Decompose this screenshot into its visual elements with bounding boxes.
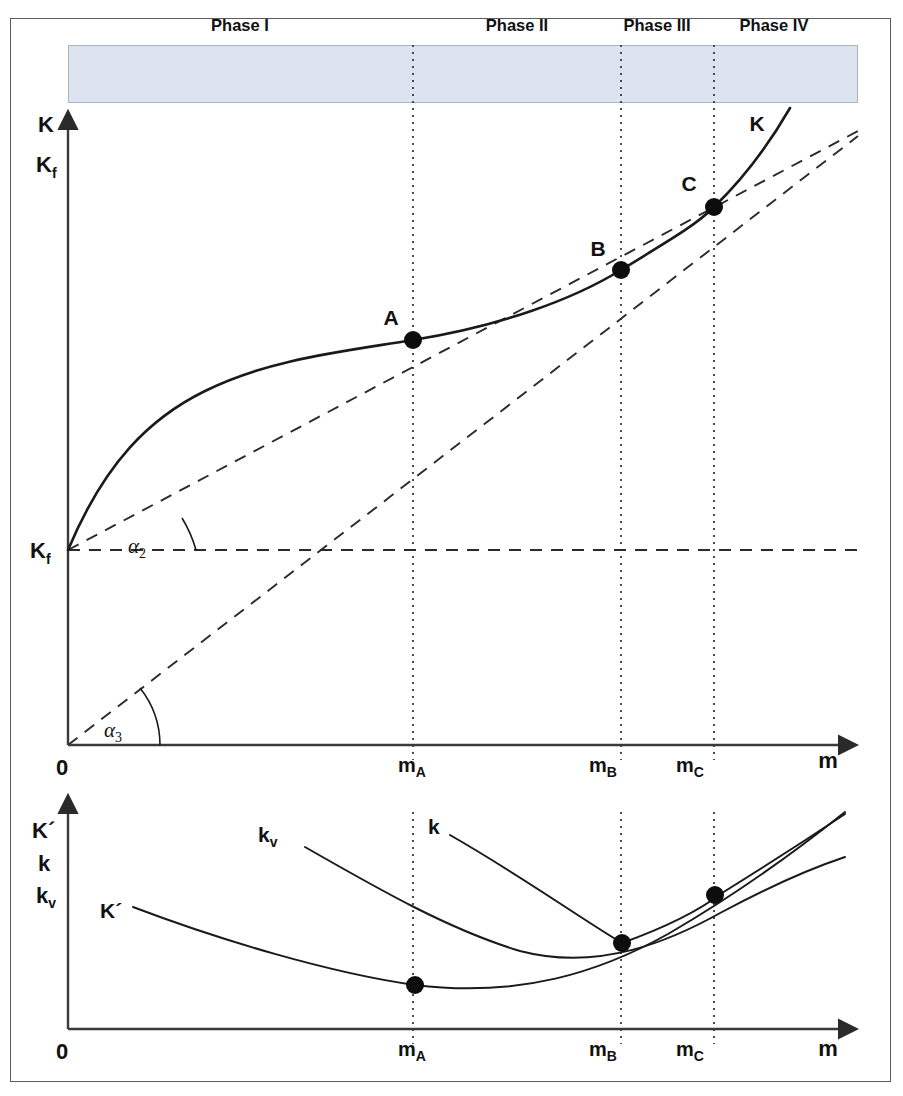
lower-tick-mc: mC: [676, 1038, 704, 1064]
angle-label-alpha2: α2: [128, 534, 146, 561]
diagram-canvas: K Kf Kf m 0 mA mB mC K A B C α2 α3 K´ k …: [0, 0, 903, 1096]
upper-tick-mc: mC: [676, 754, 704, 780]
upper-x-axis-label-m: m: [818, 748, 838, 773]
lower-point-mc-marker: [706, 886, 724, 904]
lower-curve-label-kv: kv: [258, 823, 278, 850]
upper-y-axis-label-kf-value: Kf: [30, 538, 51, 567]
lower-origin-label: 0: [56, 1039, 68, 1064]
point-label-c: C: [681, 172, 696, 195]
point-b-marker: [612, 261, 630, 279]
ray-from-kf-through-c: [68, 131, 858, 550]
lower-y-axis-label-kv: kv: [36, 883, 56, 911]
figure-root: Phase I Phase II Phase III Phase IV: [0, 0, 903, 1096]
angle-arc-alpha3: [140, 688, 160, 745]
upper-tick-mb: mB: [589, 754, 617, 780]
upper-tick-ma: mA: [398, 754, 426, 780]
lower-curve-label-kprime: K´: [100, 899, 122, 922]
curve-k-unit-total-cost: [450, 814, 845, 943]
lower-y-axis-label-kprime: K´: [32, 818, 55, 843]
lower-y-axis-label-k: k: [38, 851, 51, 876]
lower-point-mb-marker: [613, 934, 631, 952]
lower-point-ma-marker: [406, 976, 424, 994]
lower-x-axis-label-m: m: [818, 1036, 838, 1061]
curve-k-prime-marginal-cost: [133, 812, 845, 988]
point-label-b: B: [590, 237, 605, 260]
curve-label-k: K: [749, 112, 764, 135]
angle-label-alpha3: α3: [104, 718, 122, 745]
lower-curve-label-k: k: [428, 815, 440, 838]
point-a-marker: [404, 331, 422, 349]
point-c-marker: [705, 198, 723, 216]
point-label-a: A: [383, 306, 398, 329]
curve-kv-unit-variable-cost: [305, 847, 845, 958]
ray-from-origin-through-b: [68, 136, 858, 745]
upper-y-axis-label-k: K: [38, 112, 54, 137]
angle-arc-alpha2: [182, 518, 196, 550]
lower-tick-mb: mB: [589, 1038, 617, 1064]
upper-origin-label: 0: [56, 755, 68, 780]
upper-y-axis-label-kf-top: Kf: [36, 152, 57, 181]
lower-tick-ma: mA: [398, 1038, 426, 1064]
